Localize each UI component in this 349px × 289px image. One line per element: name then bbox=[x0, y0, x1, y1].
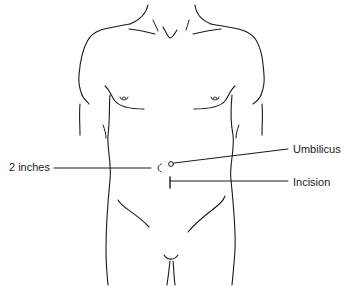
arm-right-outer bbox=[253, 95, 261, 104]
clavicle-right bbox=[193, 29, 221, 34]
distance-label: 2 inches bbox=[9, 161, 50, 173]
arm-right-inner bbox=[236, 125, 239, 138]
torso-side-right bbox=[231, 95, 236, 285]
clavicle-left bbox=[129, 29, 155, 34]
neck-right bbox=[195, 5, 211, 24]
torso-diagram: 2 inches Umbilicus Incision bbox=[0, 0, 349, 289]
umbilicus-marker bbox=[169, 162, 174, 167]
inguinal-right bbox=[188, 196, 225, 232]
umbilicus-label: Umbilicus bbox=[293, 143, 341, 155]
neck-tendon-right bbox=[186, 20, 189, 30]
sternal-notch bbox=[163, 27, 177, 38]
incision-label: Incision bbox=[293, 176, 330, 188]
neck-tendon-left bbox=[153, 20, 158, 31]
nipple-left bbox=[120, 97, 128, 100]
groin bbox=[164, 255, 178, 259]
shoulder-right bbox=[211, 24, 264, 95]
distance-bracket bbox=[158, 164, 161, 172]
arm-left-outer bbox=[82, 95, 89, 104]
arm-left-inner bbox=[103, 125, 106, 138]
pectoral-right bbox=[194, 86, 235, 109]
umbilicus-leader-line bbox=[174, 149, 288, 163]
torso-side-left bbox=[106, 95, 110, 285]
groin-right bbox=[173, 261, 175, 285]
pectoral-left bbox=[105, 86, 144, 109]
inguinal-left bbox=[118, 200, 149, 227]
nipple-right bbox=[211, 97, 219, 100]
shoulder-left bbox=[79, 24, 130, 95]
neck-left bbox=[130, 5, 148, 24]
groin-left bbox=[167, 261, 170, 285]
